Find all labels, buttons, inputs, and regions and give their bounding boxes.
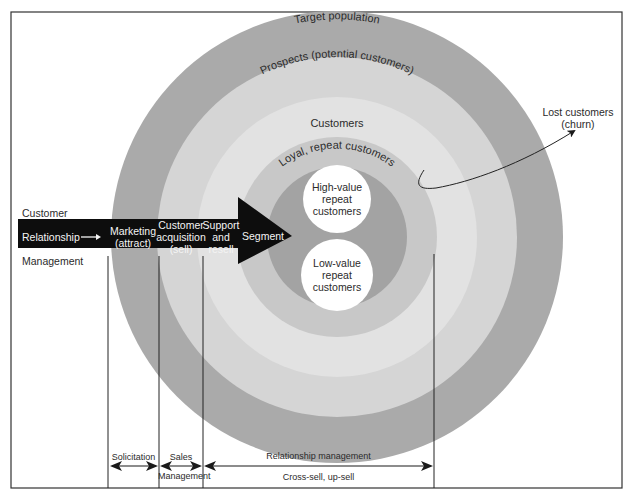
- stage-support: Support and resell: [201, 219, 241, 255]
- stage-support-line3: resell: [201, 243, 241, 255]
- high-value-line2: repeat: [302, 193, 372, 205]
- stage-acquisition-line2: acquisition: [155, 231, 207, 243]
- churn-label: Lost customers (churn): [536, 106, 620, 130]
- stage-marketing: Marketing (attract): [106, 225, 160, 249]
- solicitation-label: Solicitation: [108, 452, 159, 462]
- diagram-canvas: Target population Prospects (potential c…: [0, 0, 630, 496]
- sales-label: Sales: [159, 452, 203, 462]
- label-customers: Customers: [310, 117, 364, 129]
- relationship-management-label: Relationship management: [203, 451, 434, 461]
- low-value-line1: Low-value: [302, 257, 372, 269]
- stage-segment-line1: Segment: [240, 230, 286, 242]
- low-value-line2: repeat: [302, 269, 372, 281]
- high-value-line1: High-value: [302, 181, 372, 193]
- stage-support-line2: and: [201, 231, 241, 243]
- stage-marketing-line2: (attract): [106, 237, 160, 249]
- churn-line1: Lost customers: [536, 106, 620, 118]
- churn-line2: (churn): [536, 118, 620, 130]
- high-value-line3: customers: [302, 205, 372, 217]
- low-value-label: Low-value repeat customers: [302, 257, 372, 293]
- cross-sell-label: Cross-sell, up-sell: [203, 472, 434, 482]
- customer-label: Customer: [22, 207, 68, 219]
- relationship-label: Relationship: [22, 231, 80, 243]
- stage-marketing-line1: Marketing: [106, 225, 160, 237]
- stage-acquisition: Customer acquisition (sell): [155, 219, 207, 255]
- management-label: Management: [22, 255, 83, 267]
- low-value-line3: customers: [302, 281, 372, 293]
- stage-acquisition-line1: Customer: [155, 219, 207, 231]
- stage-acquisition-line3: (sell): [155, 243, 207, 255]
- stage-support-line1: Support: [201, 219, 241, 231]
- high-value-label: High-value repeat customers: [302, 181, 372, 217]
- crm-diagram: Target population Prospects (potential c…: [0, 0, 630, 496]
- sales-management-label: Management: [158, 471, 204, 481]
- stage-segment: Segment: [240, 230, 286, 242]
